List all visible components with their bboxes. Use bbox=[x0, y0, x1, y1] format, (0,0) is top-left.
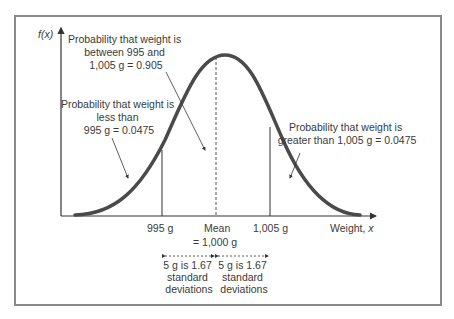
y-axis-label: f(x) bbox=[38, 28, 53, 40]
arrow-less bbox=[112, 138, 128, 178]
arrow-between bbox=[166, 72, 205, 150]
annotation-less: Probability that weight is less than 995… bbox=[61, 98, 177, 136]
tick-mean-value: = 1,000 g bbox=[193, 236, 237, 248]
tick-1005: 1,005 g bbox=[253, 222, 288, 234]
tick-995: 995 g bbox=[147, 222, 173, 234]
normal-distribution-chart: f(x) Weight, x 995 g Mean = 1,000 g 1,00… bbox=[0, 0, 454, 319]
sd-left-label: 5 g is 1.67 standard deviations bbox=[163, 259, 214, 295]
tick-mean: Mean bbox=[204, 222, 230, 234]
x-axis-label: Weight, x bbox=[330, 222, 374, 234]
annotation-between: Probability that weight is between 995 a… bbox=[68, 33, 184, 71]
sd-right-label: 5 g is 1.67 standard deviations bbox=[218, 259, 269, 295]
annotation-greater: Probability that weight is greater than … bbox=[278, 121, 417, 146]
